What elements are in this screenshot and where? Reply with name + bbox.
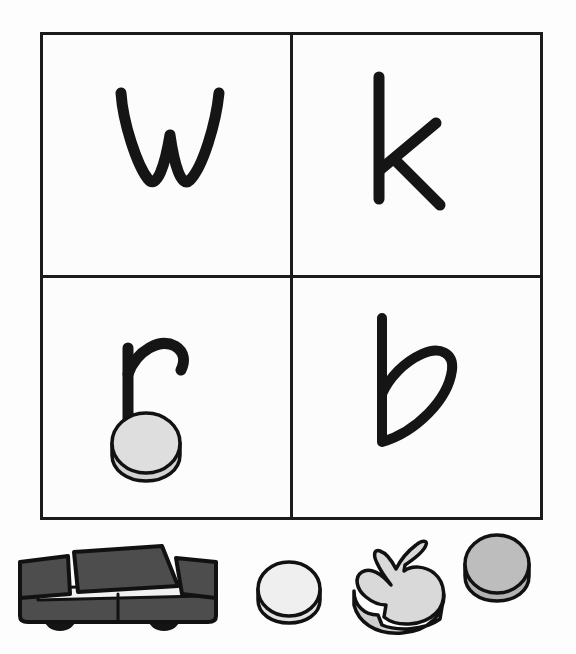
round-disc-icon xyxy=(462,532,534,604)
tray-item-disc-right[interactable]: disc-right xyxy=(462,532,534,604)
game-piece-tray: toy-car disc-left bunny xyxy=(0,528,576,654)
grid-cell-bottom-right[interactable]: b xyxy=(292,276,541,517)
round-disc-icon xyxy=(109,410,187,484)
rabbit-icon xyxy=(348,539,452,641)
letter-b-glyph xyxy=(372,312,472,452)
tray-item-bunny[interactable]: bunny xyxy=(348,539,452,641)
worksheet-page: w k r b xyxy=(0,0,576,654)
toy-car-icon xyxy=(12,536,222,636)
token-on-grid-cell-r[interactable]: round-disc xyxy=(109,410,187,484)
tray-item-toy-car[interactable]: toy-car xyxy=(12,536,222,636)
tray-item-disc-left[interactable]: disc-left xyxy=(255,559,325,625)
letter-w-glyph xyxy=(115,87,225,192)
grid-cell-top-left[interactable]: w xyxy=(43,35,292,276)
letter-grid: w k r b xyxy=(40,32,543,520)
grid-cell-top-right[interactable]: k xyxy=(292,35,541,276)
round-disc-icon xyxy=(255,559,325,625)
letter-k-glyph xyxy=(370,71,470,211)
